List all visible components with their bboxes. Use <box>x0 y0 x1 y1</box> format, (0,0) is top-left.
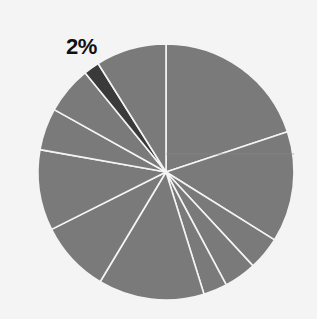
pie-chart <box>0 0 317 319</box>
highlight-slice-label: 2% <box>66 34 97 60</box>
